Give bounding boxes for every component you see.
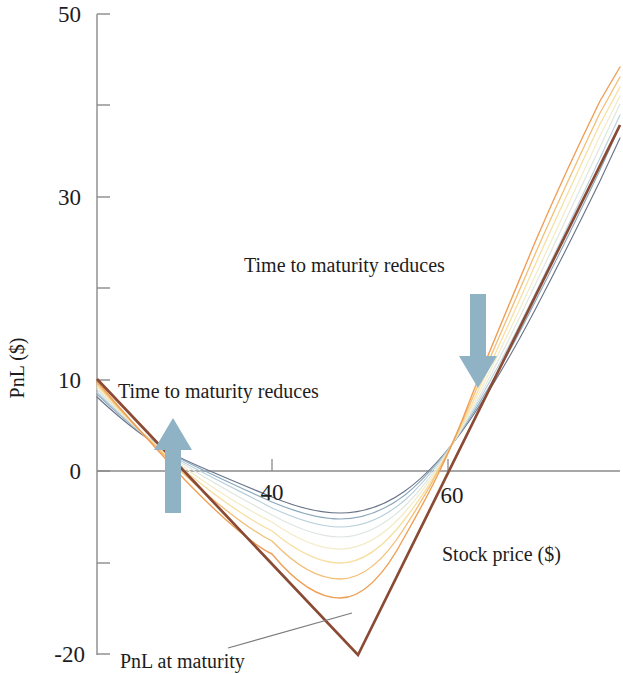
y-axis-ticks bbox=[97, 14, 110, 654]
x-tick-label-60: 60 bbox=[441, 483, 464, 508]
y-tick-label-30: 30 bbox=[58, 185, 81, 210]
y-tick-label-10: 10 bbox=[58, 368, 81, 393]
x-axis-ticks bbox=[272, 459, 448, 471]
y-tick-label-neg20: -20 bbox=[54, 642, 85, 667]
curve-family bbox=[97, 67, 620, 598]
y-tick-label-50: 50 bbox=[58, 2, 81, 27]
curve-t-0-12 bbox=[97, 67, 620, 598]
y-axis-title: PnL ($) bbox=[6, 338, 29, 399]
chart-canvas: 50 30 10 0 -20 40 60 PnL ($) Stock price… bbox=[0, 0, 623, 674]
y-tick-label-0: 0 bbox=[70, 459, 82, 484]
x-axis-title: Stock price ($) bbox=[442, 543, 561, 566]
annotation-left-time-to-maturity: Time to maturity reduces bbox=[118, 380, 319, 403]
annotation-pnl-at-maturity: PnL at maturity bbox=[120, 650, 245, 673]
x-tick-label-40: 40 bbox=[261, 480, 284, 505]
annotation-right-time-to-maturity: Time to maturity reduces bbox=[244, 254, 445, 277]
pnl-chart-figure: 50 30 10 0 -20 40 60 PnL ($) Stock price… bbox=[0, 0, 623, 674]
